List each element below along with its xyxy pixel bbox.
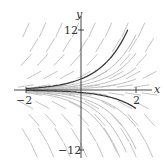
slope-mark <box>136 54 147 66</box>
slope-mark <box>54 54 65 66</box>
slope-mark <box>88 128 96 142</box>
slope-mark <box>138 23 145 38</box>
slope-mark <box>37 54 48 66</box>
slope-mark <box>23 23 30 38</box>
slope-mark <box>22 128 30 142</box>
slope-mark <box>145 38 153 52</box>
slope-mark <box>97 143 104 158</box>
slope-mark <box>56 23 63 38</box>
y-tick-label-12: 12 <box>64 24 78 37</box>
slope-mark <box>29 114 40 126</box>
slope-mark <box>120 54 131 66</box>
slope-mark <box>144 114 155 126</box>
slope-mark <box>31 143 38 158</box>
slope-mark <box>146 143 153 158</box>
slope-mark <box>18 85 34 87</box>
slope-mark <box>47 143 54 158</box>
slope-mark <box>60 71 74 79</box>
slope-mark <box>27 71 41 79</box>
slope-mark <box>55 128 63 142</box>
slope-field-diagram: −2 2 12 −12 x y <box>0 0 165 163</box>
slope-mark <box>46 38 54 52</box>
slope-mark <box>109 93 125 95</box>
x-tick-label-2: 2 <box>133 94 140 107</box>
slope-mark <box>62 114 73 126</box>
slope-mark <box>36 101 50 109</box>
slope-mark <box>70 54 81 66</box>
slope-mark <box>39 23 46 38</box>
slope-mark <box>113 143 120 158</box>
slope-mark <box>128 114 139 126</box>
slope-mark <box>126 71 140 79</box>
y-axis-label: y <box>75 8 83 21</box>
slope-mark <box>96 38 104 52</box>
slope-mark <box>143 71 157 79</box>
slope-mark <box>87 54 98 66</box>
slope-mark <box>21 54 32 66</box>
slope-mark <box>104 128 112 142</box>
x-tick-label-neg2: −2 <box>16 94 32 107</box>
slope-mark <box>52 101 66 109</box>
slope-mark <box>69 101 83 109</box>
slope-mark <box>117 85 133 87</box>
slope-mark <box>63 38 71 52</box>
slope-mark <box>44 71 58 79</box>
slope-mark <box>38 128 46 142</box>
slope-mark <box>30 38 38 52</box>
slope-mark <box>130 143 137 158</box>
y-tick-label-neg12: −12 <box>58 144 81 157</box>
slope-mark <box>45 114 56 126</box>
slope-mark <box>71 128 79 142</box>
slope-mark <box>105 23 112 38</box>
axes: −2 2 12 −12 x y <box>14 8 161 158</box>
slope-mark <box>89 23 96 38</box>
slope-mark <box>134 85 150 87</box>
slope-mark <box>78 114 89 126</box>
x-axis-label: x <box>154 83 161 96</box>
slope-mark <box>137 128 145 142</box>
